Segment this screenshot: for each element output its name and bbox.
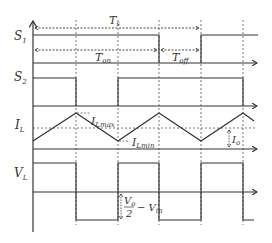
label-vl: VL	[14, 166, 28, 182]
label-ilmax: ILmax	[90, 115, 115, 129]
timing-diagram: S1 S2 IL VL Ts Ton Toff ILmax ILmin Io V…	[0, 0, 272, 243]
label-ts: Ts	[109, 14, 120, 28]
label-vl-low: Vo 2 − Vin	[124, 195, 163, 219]
svg-text:2: 2	[125, 208, 132, 219]
il-waveform	[33, 113, 254, 141]
label-toff: Toff	[172, 51, 190, 65]
s2-waveform	[33, 78, 243, 106]
label-ton: Ton	[95, 51, 112, 65]
svg-text:Vo: Vo	[124, 195, 135, 208]
label-il: IL	[14, 118, 25, 134]
label-ilmin: ILmin	[131, 136, 155, 150]
label-s2: S2	[14, 70, 27, 86]
s1-waveform	[33, 35, 258, 63]
label-s1: S1	[14, 29, 27, 45]
label-io: Io	[231, 134, 240, 147]
